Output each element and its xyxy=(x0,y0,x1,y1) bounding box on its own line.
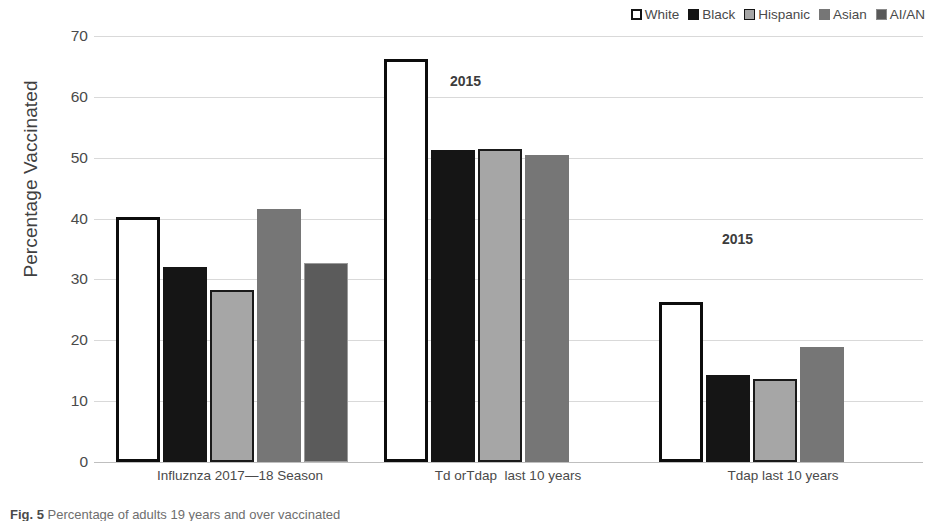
bar-hispanic[interactable] xyxy=(478,149,522,462)
bar-asian[interactable] xyxy=(800,347,844,462)
aian-swatch-icon xyxy=(876,9,887,20)
chart-legend: White Black Hispanic Asian AI/AN xyxy=(631,8,925,22)
hispanic-swatch-icon xyxy=(744,9,755,20)
plot-area: Influznza 2017—18 SeasonTd orTdap last 1… xyxy=(94,36,923,462)
y-tick-label: 10 xyxy=(30,392,88,410)
x-axis-group-label: Td orTdap last 10 years xyxy=(384,468,632,483)
year-annotation: 2015 xyxy=(450,73,481,89)
bar-group-bars xyxy=(659,36,907,462)
gridline xyxy=(94,462,923,463)
bar-black[interactable] xyxy=(431,150,475,462)
caption-text: Percentage of adults 19 years and over v… xyxy=(48,507,341,521)
x-axis-group-label: Influznza 2017—18 Season xyxy=(116,468,364,483)
legend-label-white: White xyxy=(645,8,680,22)
bar-white[interactable] xyxy=(659,302,703,462)
legend-entry-white: White xyxy=(631,8,680,22)
caption-lead: Fig. 5 xyxy=(10,507,44,521)
y-tick-label: 40 xyxy=(30,210,88,228)
bar-hispanic[interactable] xyxy=(753,379,797,462)
y-tick-label: 20 xyxy=(30,331,88,349)
vaccination-bar-chart-figure: White Black Hispanic Asian AI/AN Percent… xyxy=(0,0,931,521)
bar-asian[interactable] xyxy=(525,155,569,462)
legend-label-black: Black xyxy=(702,8,735,22)
legend-label-hispanic: Hispanic xyxy=(758,8,810,22)
y-tick-label: 50 xyxy=(30,149,88,167)
legend-label-asian: Asian xyxy=(833,8,867,22)
bar-group-bars xyxy=(116,36,364,462)
year-annotation: 2015 xyxy=(722,231,753,247)
legend-entry-aian: AI/AN xyxy=(876,8,925,22)
legend-entry-asian: Asian xyxy=(819,8,867,22)
bar-black[interactable] xyxy=(163,267,207,462)
legend-label-aian: AI/AN xyxy=(890,8,925,22)
bar-white[interactable] xyxy=(116,217,160,462)
y-tick-label: 0 xyxy=(30,453,88,471)
bar-black[interactable] xyxy=(706,375,750,462)
black-swatch-icon xyxy=(688,9,699,20)
y-tick-label: 70 xyxy=(30,27,88,45)
bar-group xyxy=(384,36,632,462)
legend-entry-black: Black xyxy=(688,8,735,22)
figure-caption: Fig. 5 Percentage of adults 19 years and… xyxy=(10,507,340,521)
y-tick-label: 60 xyxy=(30,88,88,106)
legend-entry-hispanic: Hispanic xyxy=(744,8,810,22)
bar-group-bars xyxy=(384,36,632,462)
bar-hispanic[interactable] xyxy=(210,290,254,462)
asian-swatch-icon xyxy=(819,9,830,20)
y-axis-tick-labels: 010203040506070 xyxy=(30,36,88,462)
bar-white[interactable] xyxy=(384,59,428,462)
x-axis-group-label: Tdap last 10 years xyxy=(659,468,907,483)
bar-group xyxy=(116,36,364,462)
white-swatch-icon xyxy=(631,9,642,20)
bar-ai-an[interactable] xyxy=(304,263,348,462)
bar-asian[interactable] xyxy=(257,209,301,462)
bar-group xyxy=(659,36,907,462)
y-tick-label: 30 xyxy=(30,270,88,288)
